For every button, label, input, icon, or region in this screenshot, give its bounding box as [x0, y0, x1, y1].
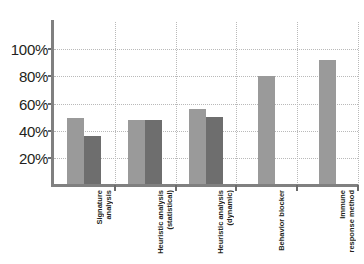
- bar-group: [297, 22, 358, 185]
- x-axis-category-label-line: Behavior blocker: [277, 190, 286, 251]
- x-axis-category-label: Heuristic analysis(dynamic): [216, 190, 238, 264]
- y-axis-tick-label: 20%: [19, 149, 48, 166]
- bar: [128, 120, 145, 185]
- bar-group: [236, 22, 297, 185]
- y-axis-tick-label: 60%: [19, 95, 48, 112]
- bar-group: [54, 22, 115, 185]
- bar: [84, 136, 101, 185]
- bar: [145, 120, 162, 185]
- x-axis-category-label-line: response method: [347, 190, 356, 253]
- x-axis-category-label: Signatureanalysis: [95, 190, 117, 264]
- bar: [319, 60, 336, 185]
- y-axis-line: [51, 20, 54, 187]
- x-axis-category-label: Heuristic analysis(statistical): [156, 190, 178, 264]
- bar-group: [115, 22, 176, 185]
- bar-chart: 20%40%60%80%100% SignatureanalysisHeuris…: [0, 0, 364, 264]
- gridline-vertical: [358, 22, 359, 185]
- y-axis-labels: 20%40%60%80%100%: [0, 0, 48, 264]
- x-axis-category-label-line: analysis: [104, 190, 113, 220]
- y-axis-tick-label: 100%: [11, 41, 48, 58]
- bar: [258, 76, 275, 185]
- y-axis-tick-label: 80%: [19, 68, 48, 85]
- x-axis-category-label-line: Heuristic analysis: [156, 190, 165, 254]
- x-axis-category-label-line: (statistical): [165, 190, 174, 230]
- y-axis-tick-label: 40%: [19, 122, 48, 139]
- x-axis-labels: SignatureanalysisHeuristic analysis(stat…: [54, 190, 358, 264]
- x-axis-category-label-line: Immune: [338, 190, 347, 219]
- x-axis-category-label: Immuneresponse method: [338, 190, 360, 264]
- plot-area: [54, 22, 358, 185]
- bar: [189, 109, 206, 185]
- x-axis-category-label-line: Signature: [95, 190, 104, 225]
- bar: [206, 117, 223, 185]
- x-axis-line: [51, 184, 358, 187]
- bar: [67, 118, 84, 185]
- bar-group: [176, 22, 237, 185]
- x-axis-category-label-line: (dynamic): [225, 190, 234, 225]
- x-axis-category-label: Behavior blocker: [277, 190, 299, 264]
